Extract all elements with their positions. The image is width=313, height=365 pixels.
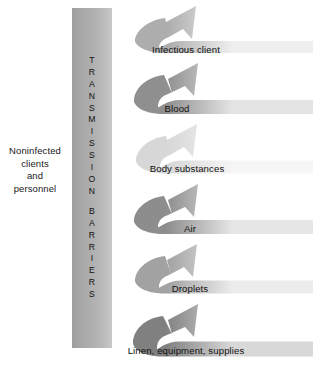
deflection-arrows-group: Infectious clientBloodBody substancesAir…	[0, 0, 313, 365]
arrow-label-body-substances: Body substances	[150, 163, 225, 174]
arrow-label-infectious-client: Infectious client	[152, 44, 220, 55]
arrow-blood	[134, 63, 313, 114]
arrow-label-droplets: Droplets	[172, 283, 209, 294]
arrow-label-blood: Blood	[164, 103, 189, 114]
transmission-barriers-diagram: Noninfected clients and personnel TRANSM…	[0, 0, 313, 365]
arrow-label-air: Air	[184, 223, 196, 234]
arrows-svg	[0, 0, 313, 365]
arrow-label-linen-equipment-supplies: Linen, equipment, supplies	[128, 345, 245, 356]
arrow-air	[134, 184, 313, 234]
arrow-droplets	[135, 244, 313, 294]
